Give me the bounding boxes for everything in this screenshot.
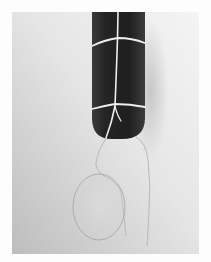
- photo-frame: Dark cylindrical object with a rounded e…: [0, 0, 211, 262]
- translucent-oval: [73, 174, 125, 240]
- photograph: [0, 0, 211, 262]
- dark-cylinder: [92, 12, 145, 139]
